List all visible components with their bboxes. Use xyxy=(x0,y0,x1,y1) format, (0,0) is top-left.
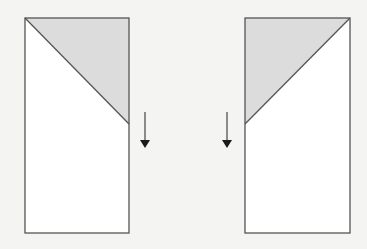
left-panel xyxy=(25,18,129,233)
right-down-arrow-icon xyxy=(222,112,232,148)
diagram-canvas xyxy=(0,0,367,249)
left-down-arrow-icon xyxy=(140,112,150,148)
right-panel xyxy=(245,18,350,233)
